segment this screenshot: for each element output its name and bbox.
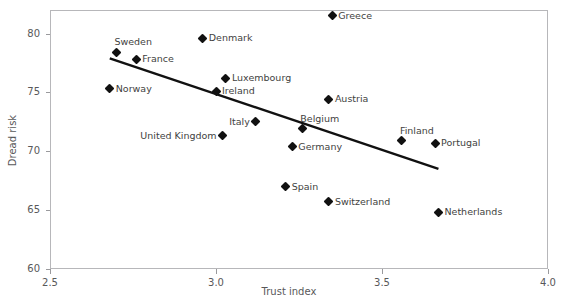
data-point-label: Italy (229, 117, 250, 127)
clipped-caption-sliver (0, 0, 578, 3)
data-point-label: Belgium (300, 114, 339, 124)
data-point-label: Switzerland (335, 197, 390, 207)
data-point-label: Sweden (114, 37, 152, 47)
x-axis-title: Trust index (0, 286, 578, 297)
x-axis-tick-mark (382, 269, 383, 274)
x-axis-tick-mark (216, 269, 217, 274)
data-point-label: Ireland (222, 86, 255, 96)
y-axis-tick-mark (46, 210, 50, 211)
data-point-label: Portugal (441, 138, 480, 148)
y-axis-tick-label: 60 (12, 264, 40, 274)
data-point-label: Germany (298, 142, 342, 152)
data-point-label: United Kingdom (140, 131, 216, 141)
y-axis-tick-label: 80 (12, 29, 40, 39)
y-axis-tick-mark (46, 151, 50, 152)
scatter-chart-figure: 60657075802.53.03.54.0 SwedenFranceNorwa… (0, 0, 578, 300)
data-point-label: Denmark (209, 33, 253, 43)
data-point-label: France (142, 54, 174, 64)
data-point-label: Finland (400, 126, 434, 136)
x-axis-tick-mark (50, 269, 51, 274)
data-point-label: Austria (335, 94, 369, 104)
data-point-label: Luxembourg (232, 73, 291, 83)
y-axis-title: Dread risk (7, 96, 18, 186)
data-point-label: Spain (292, 182, 319, 192)
data-point-label: Netherlands (444, 207, 502, 217)
y-axis-tick-mark (46, 34, 50, 35)
data-point-label: Norway (116, 84, 152, 94)
x-axis-tick-mark (548, 269, 549, 274)
data-point-label: Greece (338, 11, 372, 21)
y-axis-tick-mark (46, 92, 50, 93)
y-axis-tick-label: 65 (12, 205, 40, 215)
